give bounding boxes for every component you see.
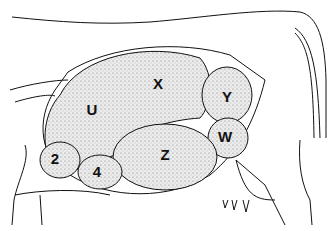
label-2: 2 — [51, 151, 59, 166]
diagram-artwork — [0, 0, 333, 231]
label-4: 4 — [93, 164, 101, 179]
label-Z: Z — [160, 147, 169, 162]
cow-stomach-diagram: U X Y W Z 2 4 — [0, 0, 333, 231]
label-U: U — [87, 102, 98, 117]
label-W: W — [218, 129, 232, 144]
label-X: X — [153, 76, 163, 91]
label-Y: Y — [222, 89, 232, 104]
organ-2 — [40, 142, 80, 178]
